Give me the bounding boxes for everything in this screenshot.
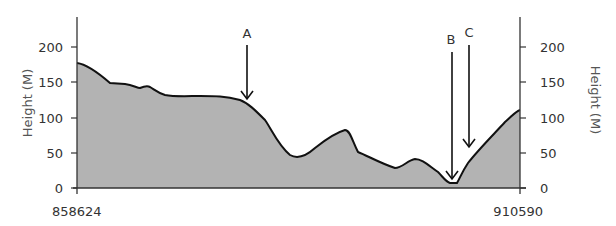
left-tick-label-50: 50: [46, 146, 63, 161]
right-tick-label-100: 100: [540, 111, 565, 126]
x-start-label: 858624: [52, 204, 102, 219]
elevation-profile-chart: 0 50 100 150 200 0 50 100 150 200 Height…: [0, 0, 616, 226]
marker-a-label: A: [243, 26, 252, 41]
marker-c-arrow-icon: [463, 45, 475, 147]
left-tick-label-0: 0: [55, 181, 63, 196]
marker-b-arrow-icon: [446, 52, 458, 179]
right-tick-label-200: 200: [540, 40, 565, 55]
right-ticks: [520, 47, 526, 188]
x-end-label: 910590: [493, 204, 543, 219]
right-tick-label-50: 50: [540, 146, 557, 161]
left-tick-label-200: 200: [38, 40, 63, 55]
profile-area: [77, 63, 520, 188]
right-tick-label-0: 0: [540, 181, 548, 196]
left-tick-label-100: 100: [38, 111, 63, 126]
left-tick-label-150: 150: [38, 75, 63, 90]
marker-b-label: B: [447, 32, 456, 47]
right-axis-title: Height (M): [588, 66, 603, 134]
left-ticks: [71, 47, 77, 188]
marker-a-arrow-icon: [241, 45, 253, 99]
right-tick-label-150: 150: [540, 75, 565, 90]
left-axis-title: Height (M): [20, 69, 35, 137]
marker-c-label: C: [464, 25, 473, 40]
